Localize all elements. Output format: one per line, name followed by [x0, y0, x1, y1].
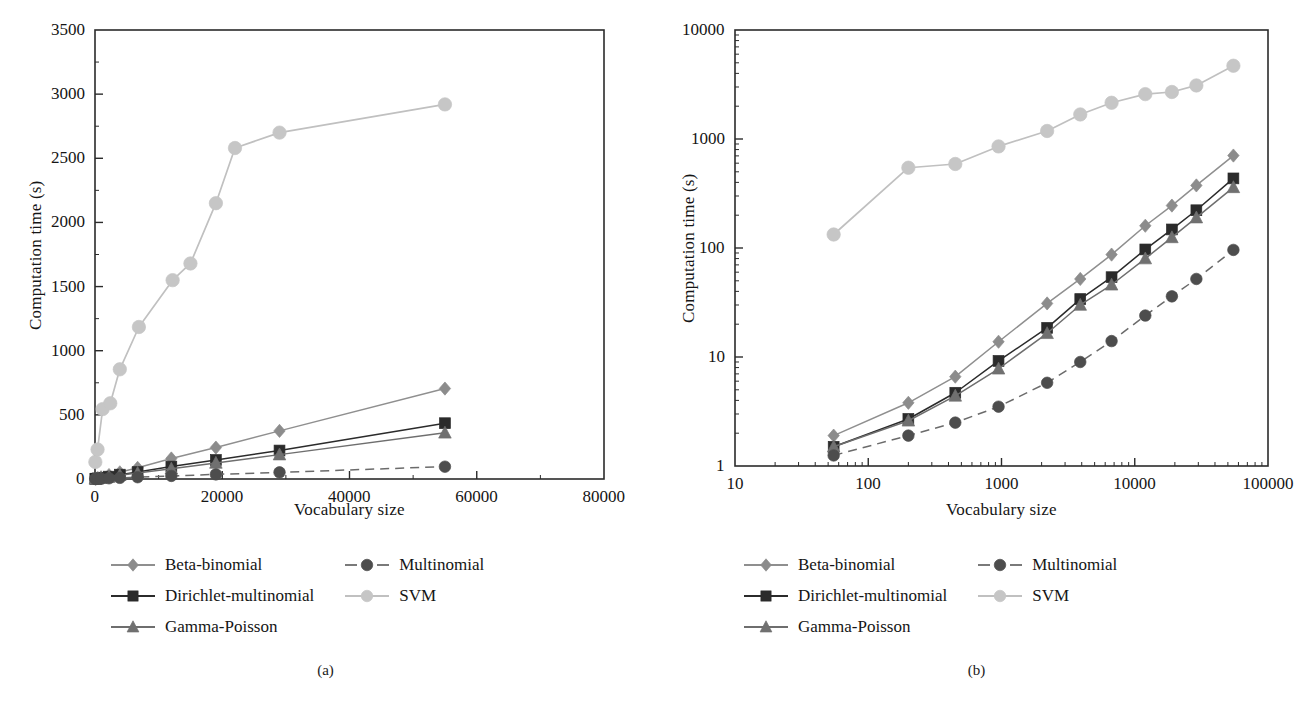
data-point [1140, 219, 1151, 232]
data-point [1165, 85, 1178, 98]
x-tick-label: 1000 [985, 474, 1019, 494]
panel-b-caption: (b) [651, 662, 1302, 679]
y-tick-label: 3000 [51, 84, 85, 104]
series-dirichlet-multinomial [90, 418, 450, 484]
legend-item-beta-binomial: Beta-binomial [743, 552, 947, 578]
legend-item-dirichlet-multinomial: Dirichlet-multinomial [743, 583, 947, 609]
data-point [273, 126, 286, 139]
data-point [1105, 96, 1118, 109]
data-point [1191, 273, 1203, 285]
y-tick-label: 2500 [51, 148, 85, 168]
data-point [1074, 356, 1086, 368]
data-point [132, 320, 145, 333]
data-point [1191, 179, 1202, 192]
panel-a-legend: Beta-binomialMultinomialDirichlet-multin… [110, 552, 484, 640]
data-point [1190, 79, 1203, 92]
data-point [1228, 244, 1240, 256]
y-tick-label: 3500 [51, 20, 85, 40]
data-point [992, 140, 1005, 153]
legend-item-multinomial: Multinomial [977, 552, 1117, 578]
data-point [828, 450, 840, 462]
legend-label: Dirichlet-multinomial [165, 586, 314, 606]
panel-b-y-axis-title: Computation time (s) [679, 173, 699, 322]
y-tick-label: 100 [699, 238, 725, 258]
data-point [1228, 149, 1239, 162]
data-point [91, 443, 104, 456]
legend-key-diamond-icon [743, 555, 789, 575]
data-point [274, 467, 286, 479]
data-point [827, 228, 840, 241]
legend-label: Gamma-Poisson [798, 617, 910, 637]
plot-frame [95, 30, 604, 479]
data-point [1041, 377, 1053, 389]
legend-label: SVM [399, 586, 436, 606]
data-point [132, 471, 144, 483]
data-point [103, 472, 115, 484]
y-tick-label: 1000 [51, 341, 85, 361]
y-tick-label: 500 [59, 405, 85, 425]
panel-a: Computation time (s) Vocabulary size Bet… [0, 0, 651, 706]
data-point [274, 424, 285, 437]
legend-key-circle-icon [344, 555, 390, 575]
y-tick-label: 1500 [51, 277, 85, 297]
legend-item-gamma-poisson: Gamma-Poisson [743, 614, 947, 640]
legend-label: Multinomial [399, 555, 484, 575]
legend-item-multinomial: Multinomial [344, 552, 484, 578]
x-tick-label: 60000 [455, 487, 498, 507]
data-point [439, 382, 450, 395]
data-point [903, 396, 914, 409]
x-tick-label: 10000 [1113, 474, 1156, 494]
data-point [950, 370, 961, 383]
data-point [1106, 335, 1118, 347]
figure: Computation time (s) Vocabulary size Bet… [0, 0, 1303, 706]
data-point [166, 273, 179, 286]
series-beta-binomial [90, 382, 451, 485]
data-point [209, 196, 222, 209]
legend-item-dirichlet-multinomial: Dirichlet-multinomial [110, 583, 314, 609]
data-point [902, 161, 915, 174]
data-point [1041, 297, 1052, 310]
x-tick-label: 80000 [583, 487, 626, 507]
legend-key-circle-icon [977, 555, 1023, 575]
legend-key-diamond-icon [110, 555, 156, 575]
data-point [210, 469, 222, 481]
y-tick-label: 2000 [51, 212, 85, 232]
data-point [228, 141, 241, 154]
legend-key-triangle-icon [743, 617, 789, 637]
legend-key-square-icon [743, 586, 789, 606]
data-point [1140, 310, 1152, 322]
legend-key-square-icon [110, 586, 156, 606]
legend-spacer [977, 614, 1117, 640]
data-point [1166, 291, 1178, 303]
panel-b-legend: Beta-binomialMultinomialDirichlet-multin… [743, 552, 1117, 640]
panel-a-caption: (a) [0, 662, 651, 679]
panel-a-y-axis-title: Computation time (s) [26, 180, 46, 329]
y-tick-label: 10 [708, 347, 725, 367]
panel-b: Computation time (s) Vocabulary size Bet… [651, 0, 1302, 706]
data-point [1166, 199, 1177, 212]
data-point [1075, 272, 1086, 285]
series-svm [89, 98, 452, 469]
x-tick-label: 20000 [201, 487, 244, 507]
legend-label: Beta-binomial [798, 555, 895, 575]
legend-label: SVM [1032, 586, 1069, 606]
data-point [1040, 124, 1053, 137]
data-point [1139, 87, 1152, 100]
data-point [993, 401, 1005, 413]
series-svm [827, 59, 1240, 241]
legend-item-svm: SVM [344, 583, 484, 609]
data-point [89, 455, 102, 468]
plot-frame [735, 30, 1268, 466]
data-point [104, 397, 117, 410]
data-point [166, 470, 178, 482]
x-tick-label: 100 [855, 474, 881, 494]
x-tick-label: 10 [727, 474, 744, 494]
legend-label: Dirichlet-multinomial [798, 586, 947, 606]
data-point [184, 257, 197, 270]
legend-key-circle-icon [344, 586, 390, 606]
legend-item-svm: SVM [977, 583, 1117, 609]
data-point [903, 430, 915, 442]
data-point [1106, 248, 1117, 261]
data-point [1227, 59, 1240, 72]
data-point [438, 98, 451, 111]
